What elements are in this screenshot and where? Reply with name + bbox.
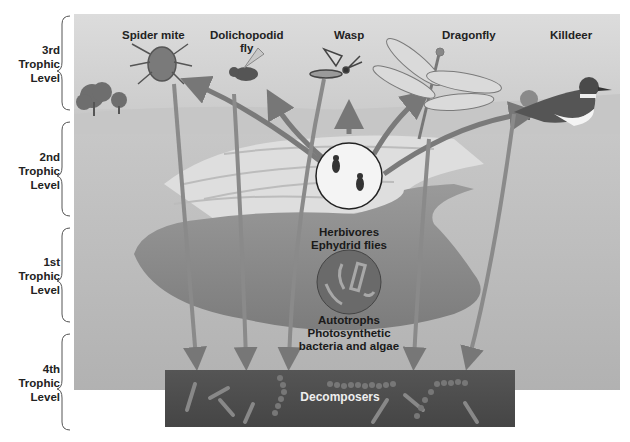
ecosystem-scene: Spider mite Dolichopodid fly Wasp Dragon… (74, 14, 620, 390)
herbivore-circle (316, 143, 382, 209)
predator-name: Spider mite (122, 29, 185, 41)
tree-icon (76, 82, 127, 116)
autotrophs-title: Autotrophs (280, 314, 418, 327)
herbivores-label: Herbivores Ephydrid flies (295, 226, 403, 252)
brace-icon (57, 334, 70, 430)
wasp-icon (310, 49, 362, 78)
predator-name: Wasp (334, 29, 364, 41)
predator-name: Dragonfly (442, 29, 496, 41)
herbivores-subtitle: Ephydrid flies (295, 239, 403, 252)
label-spider-mite: Spider mite (122, 29, 185, 42)
label-killdeer: Killdeer (550, 29, 592, 42)
autotrophs-label: Autotrophs Photosynthetic bacteria and a… (280, 314, 418, 353)
spider-mite-icon (130, 44, 192, 84)
autotroph-circle (317, 250, 381, 314)
predator-name: Dolichopodid (210, 29, 283, 42)
brace-icon (57, 122, 70, 216)
predator-name: Killdeer (550, 29, 592, 41)
autotrophs-subtitle: Photosynthetic (280, 327, 418, 340)
brace-icon (57, 16, 70, 110)
label-wasp: Wasp (334, 29, 364, 42)
arrow-killdeer-to-decomposers (469, 114, 514, 359)
brace-icon (57, 228, 70, 322)
brace-icons (0, 0, 80, 442)
herbivores-title: Herbivores (295, 226, 403, 239)
label-dolichopodid-fly: Dolichopodid fly (210, 29, 283, 55)
decomposers-box: Decomposers (165, 370, 515, 427)
label-dragonfly: Dragonfly (442, 29, 496, 42)
decomposers-label: Decomposers (165, 390, 515, 404)
predator-name: fly (210, 42, 283, 55)
autotrophs-subtitle: bacteria and algae (280, 340, 418, 353)
